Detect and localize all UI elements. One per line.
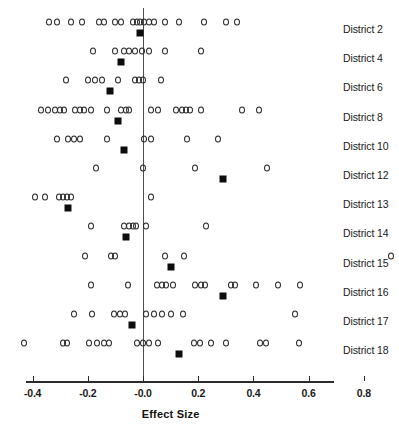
data-point-circle (140, 165, 146, 172)
x-axis-title: Effect Size (142, 408, 200, 420)
x-axis-tick (33, 376, 34, 381)
data-point-circle (198, 48, 204, 55)
row-label-district-17: District 17 (343, 315, 389, 327)
data-point-circle (184, 135, 190, 142)
data-point-circle (197, 340, 203, 347)
data-point-circle (208, 340, 214, 347)
x-axis-tick (143, 376, 144, 381)
data-point-circle (94, 340, 100, 347)
data-point-circle (79, 19, 85, 26)
data-point-circle (112, 48, 118, 55)
data-point-circle (158, 77, 164, 84)
x-axis-tick-label: -0.4 (24, 387, 41, 399)
data-point-circle (85, 77, 91, 84)
data-point-circle (112, 252, 118, 259)
data-point-circle (223, 340, 229, 347)
plot-area: -0.6-0.4-0.2-0.00.20.40.60.8Effect SizeD… (0, 0, 399, 433)
row-label-district-14: District 14 (343, 227, 389, 239)
summary-effect-square (220, 176, 227, 183)
data-point-circle (146, 48, 152, 55)
data-point-circle (263, 340, 269, 347)
summary-effect-square (117, 59, 124, 66)
data-point-circle (143, 223, 149, 230)
summary-effect-square (106, 88, 113, 95)
data-point-circle (202, 281, 208, 288)
data-point-circle (176, 19, 182, 26)
data-point-circle (64, 340, 70, 347)
data-point-circle (46, 19, 52, 26)
data-point-circle (90, 48, 96, 55)
row-label-district-8: District 8 (343, 111, 383, 123)
data-point-circle (215, 135, 221, 142)
x-axis-tick-label: 0.8 (357, 387, 371, 399)
data-point-circle (296, 340, 302, 347)
row-label-district-18: District 18 (343, 344, 389, 356)
data-point-circle (198, 106, 204, 113)
row-label-district-16: District 16 (343, 286, 389, 298)
data-point-circle (77, 135, 83, 142)
data-point-circle (122, 311, 128, 318)
data-point-circle (81, 106, 87, 113)
data-point-circle (132, 48, 138, 55)
row-label-district-2: District 2 (343, 23, 383, 35)
data-point-circle (143, 311, 149, 318)
data-point-circle (88, 106, 94, 113)
data-point-circle (21, 340, 27, 347)
data-point-circle (101, 19, 107, 26)
data-point-circle (151, 19, 157, 26)
effect-size-dot-plot-figure: -0.6-0.4-0.2-0.00.20.40.60.8Effect SizeD… (0, 0, 399, 433)
data-point-circle (104, 106, 110, 113)
data-point-circle (256, 106, 262, 113)
summary-effect-square (123, 234, 130, 241)
data-point-circle (275, 281, 281, 288)
summary-effect-square (115, 117, 122, 124)
data-point-circle (139, 48, 145, 55)
summary-effect-square (220, 292, 227, 299)
summary-effect-square (65, 205, 72, 212)
summary-effect-square (175, 351, 182, 358)
data-point-circle (168, 311, 174, 318)
data-point-circle (88, 281, 94, 288)
data-point-circle (192, 165, 198, 172)
x-axis-tick-label: 0.6 (302, 387, 316, 399)
data-point-circle (82, 252, 88, 259)
data-point-circle (234, 19, 240, 26)
data-point-circle (148, 106, 154, 113)
x-axis-tick (309, 376, 310, 381)
data-point-circle (125, 281, 131, 288)
x-axis-tick-label: 0.2 (191, 387, 205, 399)
data-point-circle (126, 106, 132, 113)
data-point-circle (92, 77, 98, 84)
zero-reference-line (143, 8, 144, 381)
data-point-circle (203, 223, 209, 230)
data-point-circle (45, 106, 51, 113)
data-point-circle (63, 77, 69, 84)
x-axis-tick (88, 376, 89, 381)
row-label-district-10: District 10 (343, 140, 389, 152)
data-point-circle (187, 106, 193, 113)
row-label-district-13: District 13 (343, 198, 389, 210)
data-point-circle (104, 135, 110, 142)
data-point-circle (38, 106, 44, 113)
data-point-circle (42, 194, 48, 201)
data-point-circle (180, 311, 186, 318)
row-label-district-6: District 6 (343, 81, 383, 93)
x-axis-line (26, 381, 334, 383)
x-axis-tick-label: -0.0 (134, 387, 151, 399)
data-point-circle (106, 340, 112, 347)
x-axis-tick-label: -0.2 (79, 387, 96, 399)
data-point-circle (162, 48, 168, 55)
data-point-circle (86, 340, 92, 347)
summary-effect-square (120, 146, 127, 153)
data-point-circle (264, 165, 270, 172)
data-point-circle (297, 281, 303, 288)
x-axis-tick (364, 376, 365, 381)
data-point-circle (148, 194, 154, 201)
x-axis-tick-label: 0.4 (246, 387, 260, 399)
data-point-circle (162, 252, 168, 259)
data-point-circle (54, 135, 60, 142)
data-point-circle (54, 19, 60, 26)
data-point-circle (151, 311, 157, 318)
row-label-district-15: District 15 (343, 257, 389, 269)
row-label-district-12: District 12 (343, 169, 389, 181)
